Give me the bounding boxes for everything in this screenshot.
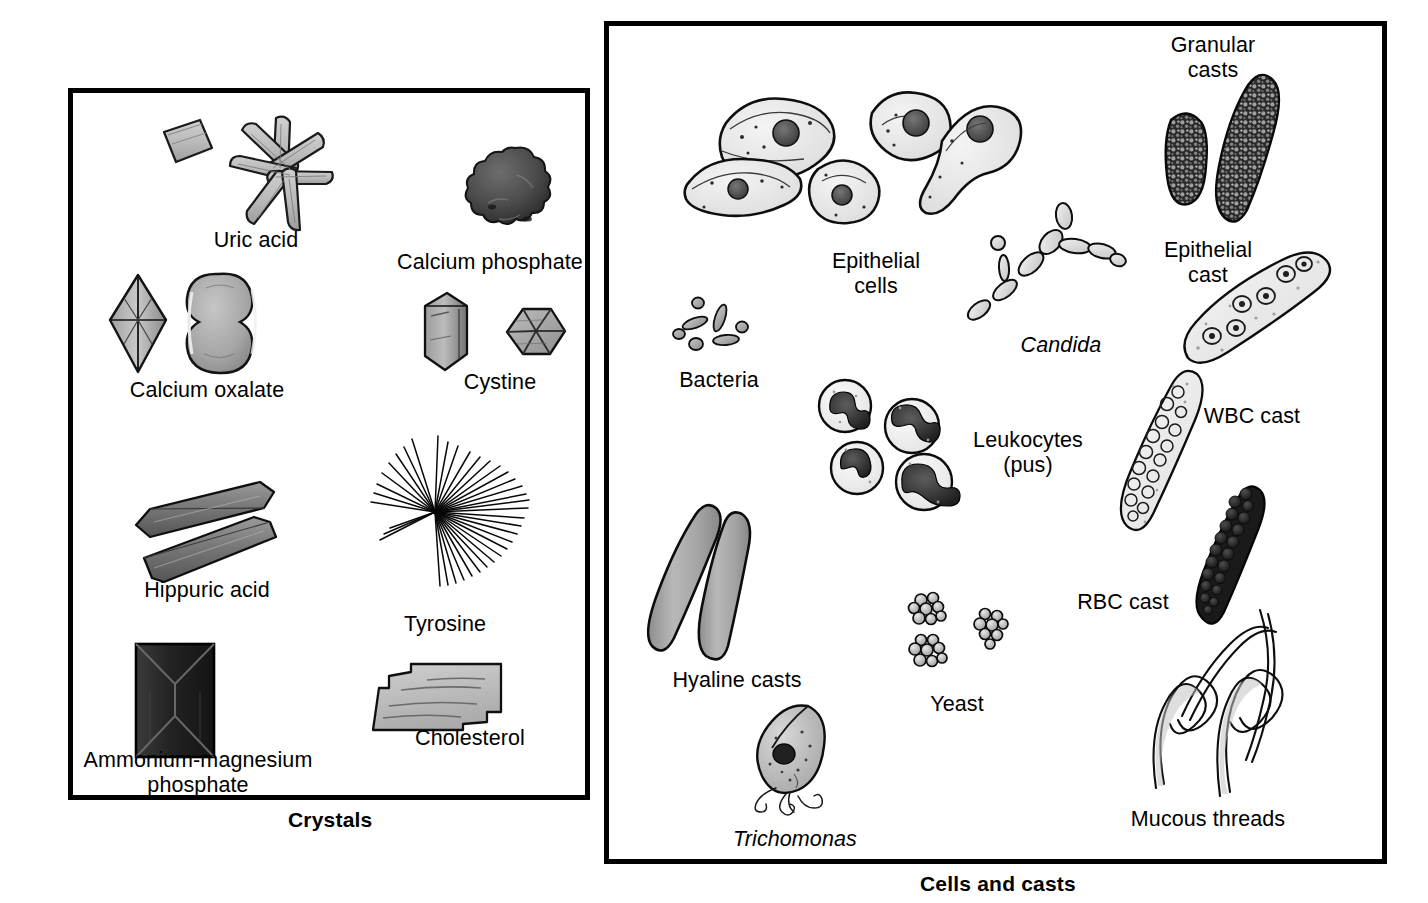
label-candida: Candida (1001, 333, 1121, 358)
label-hyaline-casts: Hyaline casts (642, 668, 832, 693)
label-cholesterol: Cholesterol (380, 726, 560, 751)
label-tyrosine: Tyrosine (370, 612, 520, 637)
urinary-sediment-figure: Uric acid Calcium phosphate (0, 0, 1428, 903)
label-epithelial-cast: Epithelial cast (1143, 238, 1273, 288)
label-bacteria: Bacteria (664, 368, 774, 393)
caption-cells-and-casts: Cells and casts (920, 872, 1076, 896)
label-calcium-oxalate: Calcium oxalate (82, 378, 332, 403)
label-uric-acid: Uric acid (196, 228, 316, 253)
label-yeast: Yeast (902, 692, 1012, 717)
label-rbc-cast: RBC cast (1058, 590, 1188, 615)
panel-crystals (68, 88, 590, 800)
label-wbc-cast: WBC cast (1192, 404, 1312, 429)
label-leukocytes: Leukocytes (pus) (958, 428, 1098, 478)
label-ammonium-magnesium-phosphate: Ammonium-magnesium phosphate (78, 748, 318, 798)
label-granular-casts: Granular casts (1143, 33, 1283, 83)
label-hippuric-acid: Hippuric acid (122, 578, 292, 603)
label-epithelial-cells: Epithelial cells (796, 249, 956, 299)
label-cystine: Cystine (430, 370, 570, 395)
label-mucous-threads: Mucous threads (1098, 807, 1318, 832)
caption-crystals: Crystals (288, 808, 372, 832)
label-calcium-phosphate: Calcium phosphate (390, 250, 590, 275)
label-trichomonas: Trichomonas (700, 827, 890, 852)
